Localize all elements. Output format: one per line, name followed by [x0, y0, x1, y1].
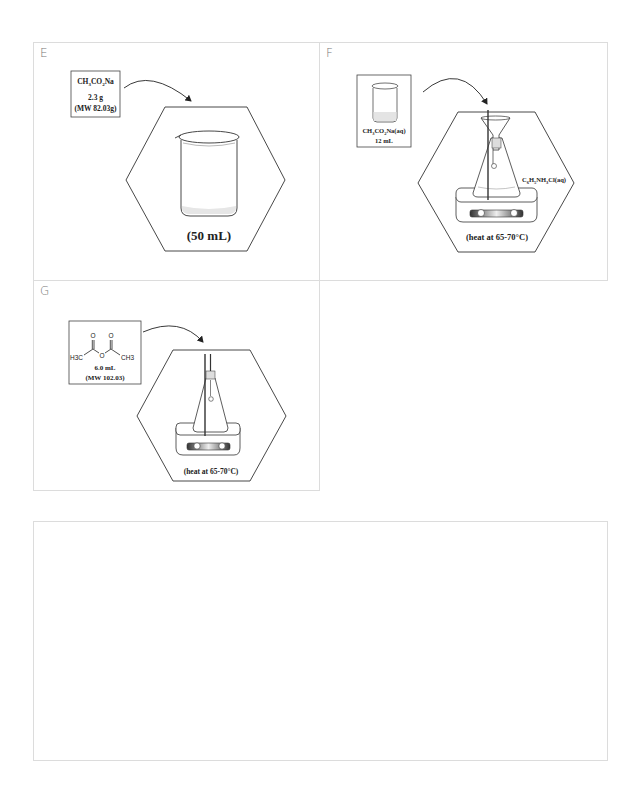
volume-caption: (50 mL) — [187, 228, 231, 243]
reagent-box-f: CH3CO2Na(aq) 12 mL — [357, 75, 411, 147]
svg-text:O: O — [108, 332, 113, 339]
reagent-box-g: O O O H3C CH3 6.0 mL (MW 102.03) — [69, 321, 141, 384]
svg-text:O: O — [90, 332, 95, 339]
arrow-icon — [423, 79, 487, 104]
svg-text:O: O — [99, 352, 104, 359]
arrow-icon — [124, 80, 191, 101]
svg-text:CH3: CH3 — [121, 354, 134, 361]
svg-text:(MW 82.03g): (MW 82.03g) — [75, 104, 117, 113]
svg-text:6.0 mL: 6.0 mL — [95, 364, 116, 372]
arrow-icon — [143, 326, 203, 342]
beaker-icon — [175, 131, 239, 216]
svg-text:(MW 102.03): (MW 102.03) — [85, 374, 125, 382]
reagent-box-e: CH3CO2Na 2.3 g (MW 82.03g) — [71, 71, 120, 117]
svg-text:H3C: H3C — [70, 354, 83, 361]
heat-caption: (heat at 65-70°C) — [184, 467, 239, 476]
svg-text:12 mL: 12 mL — [375, 137, 394, 144]
diagram-artwork: CH3CO2Na 2.3 g (MW 82.03g) (50 mL) CH3CO… — [0, 0, 637, 795]
svg-text:2.3 g: 2.3 g — [88, 93, 103, 102]
svg-text:CH3CO2Na: CH3CO2Na — [77, 77, 114, 87]
heat-caption: (heat at 65-70°C) — [466, 232, 528, 242]
